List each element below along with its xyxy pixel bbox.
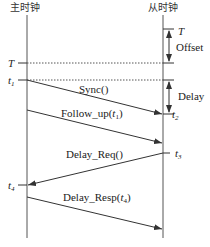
arrow-up-icon — [166, 30, 172, 38]
follow-up-label: Follow_up(t1) — [61, 107, 123, 121]
t1-label: t1 — [8, 74, 15, 88]
arrow-up-icon — [166, 81, 172, 89]
master-T-label: T — [8, 57, 15, 69]
offset-bracket — [163, 29, 174, 63]
t2-label: t2 — [172, 108, 179, 122]
t3-label: t3 — [175, 147, 182, 161]
offset-label: Offset — [176, 41, 203, 53]
delay-label: Delay — [178, 90, 205, 102]
slave-clock-label: 从时钟 — [148, 1, 178, 13]
delay-resp-label: Delay_Resp(t4) — [63, 191, 131, 205]
delay-req-label: Delay_Req() — [66, 148, 123, 161]
ptp-sync-diagram: 主时钟 从时钟 T Offset T t1 Delay Sync() t2 Fo… — [0, 0, 210, 247]
arrow-down-icon — [166, 54, 172, 62]
t4-label: t4 — [8, 179, 15, 193]
slave-T-label: T — [178, 25, 185, 37]
sync-label: Sync() — [79, 83, 109, 96]
master-clock-label: 主时钟 — [10, 1, 40, 13]
